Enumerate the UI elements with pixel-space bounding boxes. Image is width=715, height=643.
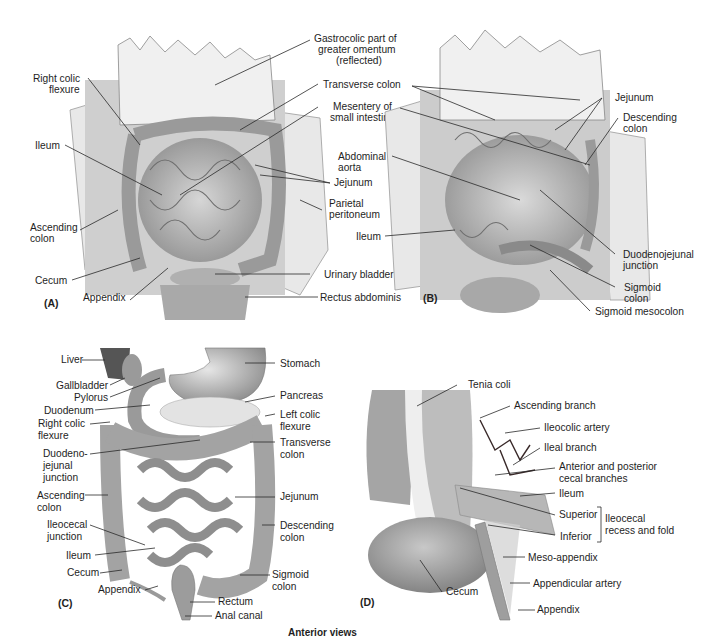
panel-b-tag: (B): [423, 292, 438, 304]
label-ileum-c: Ileum: [66, 550, 91, 562]
label-pylorus: Pylorus: [74, 392, 108, 404]
label-appendicular-artery: Appendicular artery: [533, 578, 621, 590]
label-descending-colon-c-2: colon: [280, 532, 304, 544]
label-abdominal-aorta-2: aorta: [338, 162, 361, 174]
label-meso-appendix: Meso-appendix: [528, 552, 598, 564]
label-rectum: Rectum: [218, 596, 253, 608]
label-ascending-colon-c-2: colon: [37, 502, 61, 514]
label-ileum-d: Ileum: [559, 488, 584, 500]
label-duodenojejunal-junction-1: Duodenojejunal: [623, 249, 694, 261]
panel-c: Liver Gallbladder Pylorus Duodenum Right…: [0, 320, 360, 643]
label-left-colic-flexure-1: Left colic: [280, 409, 320, 421]
label-ileocolic-artery: Ileocolic artery: [544, 422, 610, 434]
label-left-colic-flexure-2: flexure: [280, 421, 311, 433]
label-ascending-branch: Ascending branch: [514, 400, 596, 412]
label-ileum-b: Ileum: [356, 231, 381, 243]
label-ileocecal-junction-2: junction: [47, 531, 82, 543]
label-pancreas: Pancreas: [280, 390, 323, 402]
label-liver: Liver: [61, 354, 83, 366]
panel-d: Tenia coli Ascending branch Ileocolic ar…: [360, 330, 715, 643]
label-appendix-c: Appendix: [98, 584, 140, 596]
label-ileocecal-junction-1: Ileocecal: [47, 519, 87, 531]
label-sigmoid-colon-c-2: colon: [272, 581, 296, 593]
label-duodenojejunal-junction-2: junction: [623, 260, 658, 272]
label-gallbladder: Gallbladder: [56, 380, 108, 392]
label-cecum-d: Cecum: [446, 586, 478, 598]
panel-d-tag: (D): [360, 596, 375, 608]
label-ileocecal-recess-1: Ileocecal: [605, 513, 645, 525]
panel-d-illustration: [360, 330, 715, 643]
label-sigmoid-colon-c-1: Sigmoid: [272, 569, 309, 581]
label-duodenojejunal-c-3: junction: [43, 472, 78, 484]
label-descending-colon-2: colon: [623, 123, 647, 135]
label-jejunum-b: Jejunum: [615, 92, 654, 104]
label-cecal-branches-2: cecal branches: [559, 473, 628, 485]
panel-b: Abdominal aorta Ileum Jejunum Descending…: [0, 0, 715, 320]
label-ascending-colon-c-1: Ascending: [37, 490, 85, 502]
label-sigmoid-colon-b-2: colon: [624, 293, 648, 305]
panel-c-tag: (C): [58, 597, 73, 609]
label-inferior: Inferior: [560, 531, 592, 543]
label-sigmoid-mesocolon: Sigmoid mesocolon: [595, 306, 684, 318]
label-superior: Superior: [559, 509, 598, 521]
label-transverse-colon-c-1: Transverse: [280, 437, 331, 449]
label-stomach: Stomach: [280, 358, 320, 370]
label-jejunum-c: Jejunum: [280, 491, 319, 503]
label-right-colic-flexure-c-1: Right colic: [38, 418, 85, 430]
label-anal-canal: Anal canal: [215, 610, 263, 622]
label-appendix-d: Appendix: [537, 604, 579, 616]
label-cecum-c: Cecum: [67, 567, 99, 579]
label-transverse-colon-c-2: colon: [280, 449, 304, 461]
label-descending-colon-c-1: Descending: [280, 520, 334, 532]
label-sigmoid-colon-b-1: Sigmoid: [624, 282, 661, 294]
label-ileocecal-recess-2: recess and fold: [605, 525, 674, 537]
label-cecal-branches-1: Anterior and posterior: [559, 461, 657, 473]
label-duodenum: Duodenum: [44, 405, 94, 417]
label-abdominal-aorta-1: Abdominal: [338, 151, 386, 163]
label-duodenojejunal-c-1: Duodeno-: [43, 448, 88, 460]
label-right-colic-flexure-c-2: flexure: [38, 430, 69, 442]
label-duodenojejunal-c-2: jejunal: [43, 460, 72, 472]
label-descending-colon-1: Descending: [623, 112, 677, 124]
label-tenia-coli: Tenia coli: [468, 379, 510, 391]
label-ileal-branch: Ileal branch: [544, 442, 597, 454]
figure-caption: Anterior views: [288, 627, 357, 638]
